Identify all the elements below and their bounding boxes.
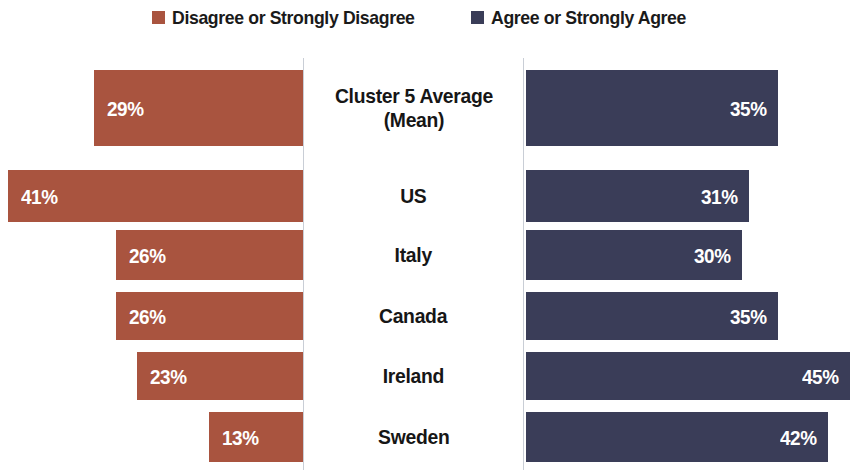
category-label-text: US — [400, 184, 426, 208]
square-swatch-icon — [471, 11, 484, 24]
category-label-text: Sweden — [378, 425, 449, 449]
row-right-series: 31% — [526, 170, 852, 222]
bar-value-label: 45% — [802, 366, 838, 387]
bar-agree[interactable]: 35% — [526, 292, 778, 340]
row-category-label: US — [304, 170, 523, 222]
row-right-series: 35% — [526, 292, 852, 340]
bar-value-label: 26% — [129, 245, 165, 266]
chart-row: 13%Sweden42% — [0, 412, 852, 462]
bar-agree[interactable]: 42% — [526, 412, 828, 462]
bar-disagree[interactable]: 41% — [8, 170, 303, 222]
legend-item-disagree: Disagree or Strongly Disagree — [152, 8, 433, 27]
row-category-label: Cluster 5 Average (Mean) — [304, 70, 523, 146]
bar-value-label: 42% — [780, 427, 816, 448]
bar-value-label: 31% — [701, 186, 737, 207]
row-left-series: 23% — [0, 352, 303, 400]
square-swatch-icon — [152, 11, 165, 24]
bar-value-label: 13% — [222, 427, 258, 448]
row-right-series: 42% — [526, 412, 852, 462]
row-right-series: 45% — [526, 352, 852, 400]
legend-label-disagree: Disagree or Strongly Disagree — [172, 8, 415, 27]
row-right-series: 30% — [526, 230, 852, 280]
row-left-series: 41% — [0, 170, 303, 222]
bar-disagree[interactable]: 13% — [209, 412, 303, 462]
category-label-text: Italy — [395, 243, 432, 267]
bar-value-label: 35% — [730, 98, 766, 119]
chart-row: 23%Ireland45% — [0, 352, 852, 400]
bar-disagree[interactable]: 26% — [116, 292, 303, 340]
row-left-series: 26% — [0, 292, 303, 340]
row-category-label: Sweden — [304, 412, 523, 462]
bar-value-label: 26% — [129, 306, 165, 327]
category-label-text: Ireland — [383, 364, 444, 388]
bar-value-label: 35% — [730, 306, 766, 327]
row-category-label: Canada — [304, 292, 523, 340]
category-label-text: Cluster 5 Average (Mean) — [334, 84, 492, 131]
bar-value-label: 41% — [21, 186, 57, 207]
category-label-text: Canada — [379, 304, 447, 328]
bar-value-label: 23% — [150, 366, 186, 387]
chart-legend: Disagree or Strongly Disagree Agree or S… — [0, 0, 852, 34]
row-left-series: 13% — [0, 412, 303, 462]
bar-disagree[interactable]: 26% — [116, 230, 303, 280]
legend-item-agree: Agree or Strongly Agree — [471, 8, 701, 27]
bar-disagree[interactable]: 23% — [137, 352, 303, 400]
row-category-label: Italy — [304, 230, 523, 280]
bar-disagree[interactable]: 29% — [94, 70, 303, 146]
row-category-label: Ireland — [304, 352, 523, 400]
legend-label-agree: Agree or Strongly Agree — [491, 8, 686, 27]
bar-agree[interactable]: 30% — [526, 230, 742, 280]
bar-agree[interactable]: 35% — [526, 70, 778, 146]
bar-agree[interactable]: 45% — [526, 352, 850, 400]
chart-rows: 29%Cluster 5 Average (Mean)35%41%US31%26… — [0, 34, 852, 470]
row-left-series: 26% — [0, 230, 303, 280]
bar-value-label: 29% — [107, 98, 143, 119]
chart-plot-area: 29%Cluster 5 Average (Mean)35%41%US31%26… — [0, 34, 852, 470]
row-left-series: 29% — [0, 70, 303, 146]
bar-value-label: 30% — [694, 245, 730, 266]
chart-row: 29%Cluster 5 Average (Mean)35% — [0, 70, 852, 146]
bar-agree[interactable]: 31% — [526, 170, 749, 222]
row-right-series: 35% — [526, 70, 852, 146]
chart-row: 26%Italy30% — [0, 230, 852, 280]
chart-row: 26%Canada35% — [0, 292, 852, 340]
chart-row: 41%US31% — [0, 170, 852, 222]
